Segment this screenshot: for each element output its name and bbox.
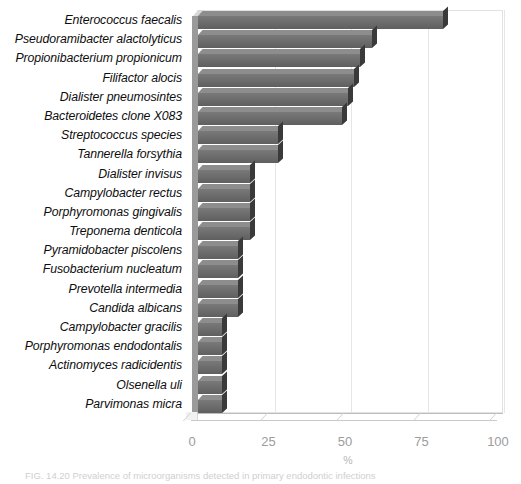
- bar-front-face: [198, 112, 342, 125]
- category-label: Campylobacter rectus: [64, 186, 182, 200]
- category-label: Enterococcus faecalis: [64, 13, 182, 27]
- x-tick-mark: [489, 413, 504, 421]
- category-label: Dialister invisus: [98, 167, 182, 181]
- figure-caption: FIG. 14.20 Prevalence of microorganisms …: [25, 470, 495, 482]
- bar: [198, 69, 360, 87]
- bar-front-face: [198, 93, 348, 106]
- bar-front-face: [198, 400, 222, 413]
- category-label: Actinomyces radicidentis: [49, 358, 182, 372]
- category-label: Filifactor alocis: [102, 71, 182, 85]
- category-label: Dialister pneumosintes: [60, 90, 182, 104]
- bar-end-cap: [354, 64, 359, 87]
- category-label: Porphyromonas endodontalis: [25, 339, 182, 353]
- bar-front-face: [198, 189, 250, 202]
- bar: [198, 299, 244, 317]
- category-label: Campylobacter gracilis: [60, 320, 182, 334]
- x-tick-label: 100: [478, 434, 518, 449]
- category-label: Fusobacterium nucleatum: [43, 262, 182, 276]
- bar: [198, 203, 256, 221]
- bar: [198, 222, 256, 240]
- bar-front-face: [198, 246, 238, 259]
- category-label: Candida albicans: [89, 301, 182, 315]
- category-label: Treponema denticola: [69, 224, 182, 238]
- bar-end-cap: [278, 141, 283, 164]
- bar: [198, 260, 244, 278]
- x-tick-label: 50: [325, 434, 365, 449]
- x-tick-label: 25: [249, 434, 289, 449]
- bar-front-face: [198, 342, 222, 355]
- bar: [198, 30, 378, 48]
- bar-front-face: [198, 54, 360, 67]
- x-tick-label: 75: [402, 434, 442, 449]
- bar-front-face: [198, 208, 250, 221]
- bar: [198, 376, 228, 394]
- bar-front-face: [198, 16, 443, 29]
- bar-chart-figure: Enterococcus faecalisPseudoramibacter al…: [0, 0, 521, 484]
- category-label: Prevotella intermedia: [69, 282, 182, 296]
- x-tick-label: 0: [172, 434, 212, 449]
- bar: [198, 49, 366, 67]
- bar: [198, 280, 244, 298]
- bar: [198, 126, 284, 144]
- bar: [198, 356, 228, 374]
- category-label: Olsenella uli: [116, 378, 182, 392]
- gridline-75: [428, 10, 429, 413]
- bar-front-face: [198, 304, 238, 317]
- category-label: Streptococcus species: [61, 128, 182, 142]
- bar-end-cap: [342, 102, 347, 125]
- bar-front-face: [198, 35, 372, 48]
- category-label: Bacteroidetes clone X083: [44, 109, 182, 123]
- bar-front-face: [198, 170, 250, 183]
- category-label: Tannerella forsythia: [77, 147, 182, 161]
- bar-end-cap: [372, 26, 377, 49]
- category-label: Porphyromonas gingivalis: [44, 205, 182, 219]
- bar: [198, 145, 284, 163]
- x-axis-title: %: [186, 454, 510, 466]
- bar-front-face: [198, 265, 238, 278]
- bar-front-face: [198, 131, 278, 144]
- bar-front-face: [198, 381, 222, 394]
- bar: [198, 88, 354, 106]
- category-label: Pyramidobacter piscolens: [44, 243, 182, 257]
- bar-end-cap: [348, 83, 353, 106]
- bar-front-face: [198, 361, 222, 374]
- bar: [198, 165, 256, 183]
- category-label: Parvimonas micra: [85, 397, 182, 411]
- bar-front-face: [198, 150, 278, 163]
- bar: [198, 395, 228, 413]
- bar: [198, 241, 244, 259]
- bar-front-face: [198, 323, 222, 336]
- category-label-column: Enterococcus faecalisPseudoramibacter al…: [0, 10, 186, 422]
- bar-front-face: [198, 285, 238, 298]
- bar-end-cap: [360, 45, 365, 68]
- gridline-100: [504, 10, 505, 413]
- bar-end-cap: [222, 390, 227, 413]
- category-label: Propionibacterium propionicum: [15, 51, 182, 65]
- bar: [198, 11, 449, 29]
- bar: [198, 107, 348, 125]
- bar-end-cap: [250, 218, 255, 241]
- bar: [198, 184, 256, 202]
- plot-area: 0255075100 %: [186, 10, 510, 422]
- category-label: Pseudoramibacter alactolyticus: [15, 32, 182, 46]
- bar-end-cap: [238, 294, 243, 317]
- bar: [198, 318, 228, 336]
- bar-front-face: [198, 74, 354, 87]
- bar-end-cap: [443, 6, 448, 29]
